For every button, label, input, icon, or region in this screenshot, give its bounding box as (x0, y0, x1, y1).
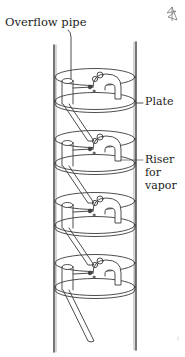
stage-2 (55, 131, 135, 175)
plate-top (55, 279, 135, 296)
column-walls (54, 42, 136, 352)
fractionating-column-diagram: Overflow pipe Plate Riser for vapor (0, 0, 185, 357)
plate-label: Plate (145, 96, 173, 108)
pencil-star-icon (165, 5, 179, 23)
overflow-pipe (62, 81, 73, 104)
stage-1 (55, 69, 135, 113)
plate-top (55, 93, 135, 110)
overflow-pipe-leader (68, 30, 71, 82)
overflow-pipe-label: Overflow pipe (5, 16, 87, 28)
overflow-pipe (62, 143, 73, 166)
stage-3 (55, 193, 135, 237)
plate-top (55, 217, 135, 234)
stage-4 (55, 255, 135, 299)
riser-label-line-3: vapor (145, 179, 177, 192)
riser-label-line-1: Riser (145, 153, 177, 166)
plate-top (55, 155, 135, 172)
riser-label-line-2: for (145, 166, 177, 179)
overflow-pipe (62, 267, 73, 290)
overflow-pipe (62, 205, 73, 228)
riser-label: Riser for vapor (145, 153, 177, 192)
